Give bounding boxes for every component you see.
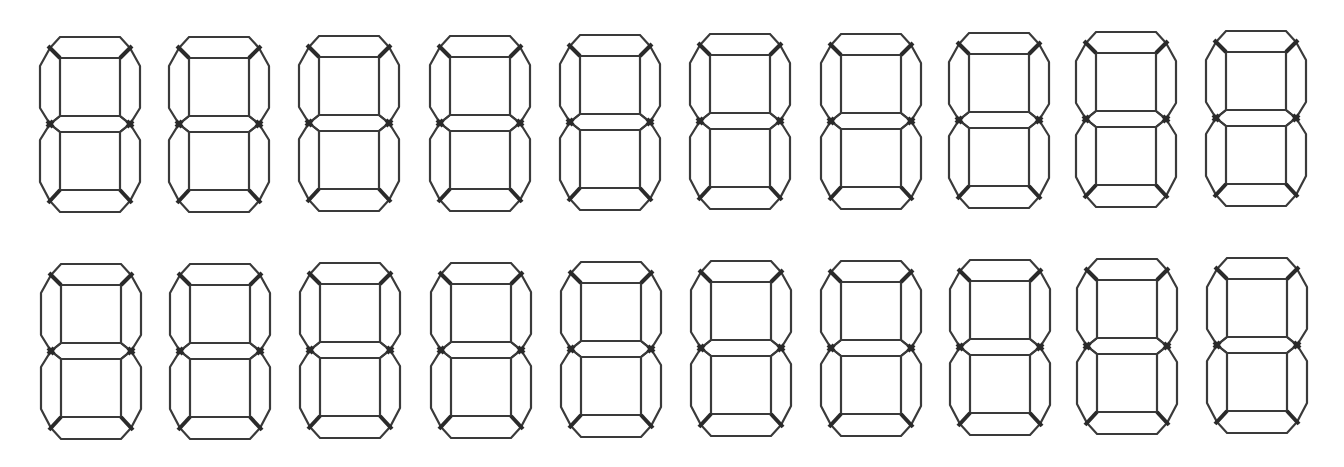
segment-d-bottom — [441, 416, 521, 438]
segment-joint — [957, 186, 969, 199]
seven-segment-digit — [949, 33, 1049, 208]
segment-joint — [1215, 411, 1227, 424]
segment-joint — [698, 187, 710, 200]
segment-c-bottom-right — [249, 124, 269, 201]
segment-joint — [958, 413, 970, 426]
segment-a-top — [310, 263, 390, 284]
segment-joint — [439, 416, 451, 429]
segment-f-top-left — [561, 273, 581, 349]
segment-f-top-left — [691, 272, 711, 348]
segment-b-top-right — [380, 274, 400, 350]
segment-joint — [1084, 185, 1096, 198]
segment-joint — [49, 273, 61, 285]
segment-g-middle — [1217, 337, 1297, 353]
segment-f-top-left — [300, 274, 320, 350]
segment-joint — [438, 45, 450, 57]
segment-d-bottom — [831, 414, 911, 436]
top-row — [40, 31, 1306, 212]
segment-e-bottom-left — [691, 348, 711, 425]
segment-e-bottom-left — [431, 350, 451, 427]
segment-f-top-left — [949, 44, 969, 120]
segment-f-top-left — [950, 271, 970, 347]
segment-d-bottom — [571, 415, 651, 437]
segment-d-bottom — [1087, 412, 1167, 434]
segment-joint — [957, 42, 969, 54]
segment-d-bottom — [309, 189, 389, 211]
segment-e-bottom-left — [821, 121, 841, 198]
segment-joint — [1030, 269, 1042, 281]
segment-b-top-right — [1287, 269, 1307, 345]
segment-joint — [250, 417, 262, 430]
segment-d-bottom — [179, 190, 259, 212]
segment-d-bottom — [959, 186, 1039, 208]
segment-d-bottom — [960, 413, 1040, 435]
segment-joint — [249, 190, 261, 203]
segment-joint — [770, 187, 782, 200]
segment-e-bottom-left — [1077, 346, 1097, 423]
segment-joint — [48, 46, 60, 58]
segment-g-middle — [701, 340, 781, 356]
segment-c-bottom-right — [640, 122, 660, 199]
segment-d-bottom — [180, 417, 260, 439]
segment-joint — [1215, 267, 1227, 279]
segment-joint — [901, 187, 913, 200]
segment-joint — [439, 272, 451, 284]
segment-a-top — [1216, 31, 1296, 52]
seven-segment-figure — [0, 0, 1344, 467]
segment-joint — [308, 416, 320, 429]
segment-joint — [1030, 413, 1042, 426]
segment-g-middle — [50, 116, 130, 132]
segment-joint — [177, 190, 189, 203]
segment-joint — [568, 188, 580, 201]
segment-joint — [177, 46, 189, 58]
seven-segment-digit — [950, 260, 1050, 435]
digits-layer — [40, 31, 1307, 439]
segment-e-bottom-left — [41, 351, 61, 428]
seven-segment-digit — [821, 261, 921, 436]
segment-e-bottom-left — [950, 347, 970, 424]
segment-d-bottom — [831, 187, 911, 209]
segment-joint — [641, 271, 653, 283]
segment-joint — [568, 44, 580, 56]
segment-joint — [121, 273, 133, 285]
segment-b-top-right — [250, 275, 270, 351]
segment-joint — [1157, 412, 1169, 425]
segment-joint — [1029, 42, 1041, 54]
segment-g-middle — [1087, 338, 1167, 354]
segment-joint — [958, 269, 970, 281]
segment-joint — [249, 46, 261, 58]
segment-joint — [379, 189, 391, 202]
segment-c-bottom-right — [1030, 347, 1050, 424]
segment-a-top — [440, 36, 520, 57]
segment-joint — [771, 414, 783, 427]
segment-e-bottom-left — [430, 123, 450, 200]
segment-joint — [829, 414, 841, 427]
segment-joint — [641, 415, 653, 428]
segment-b-top-right — [770, 45, 790, 121]
segment-joint — [1029, 186, 1041, 199]
segment-e-bottom-left — [821, 348, 841, 425]
segment-joint — [380, 272, 392, 284]
segment-joint — [178, 417, 190, 430]
segment-joint — [640, 188, 652, 201]
segment-c-bottom-right — [771, 348, 791, 425]
seven-segment-digit — [169, 37, 269, 212]
segment-f-top-left — [1206, 42, 1226, 118]
segment-c-bottom-right — [1286, 118, 1306, 195]
segment-a-top — [179, 37, 259, 58]
segment-joint — [511, 416, 523, 429]
segment-c-bottom-right — [1157, 346, 1177, 423]
segment-joint — [307, 45, 319, 57]
segment-d-bottom — [440, 189, 520, 211]
segment-joint — [510, 45, 522, 57]
segment-c-bottom-right — [1029, 120, 1049, 197]
segment-g-middle — [179, 116, 259, 132]
segment-e-bottom-left — [1207, 345, 1227, 422]
segment-a-top — [441, 263, 521, 284]
segment-g-middle — [440, 115, 520, 131]
segment-e-bottom-left — [949, 120, 969, 197]
segment-joint — [698, 43, 710, 55]
segment-a-top — [831, 34, 911, 55]
segment-joint — [640, 44, 652, 56]
segment-f-top-left — [169, 48, 189, 124]
